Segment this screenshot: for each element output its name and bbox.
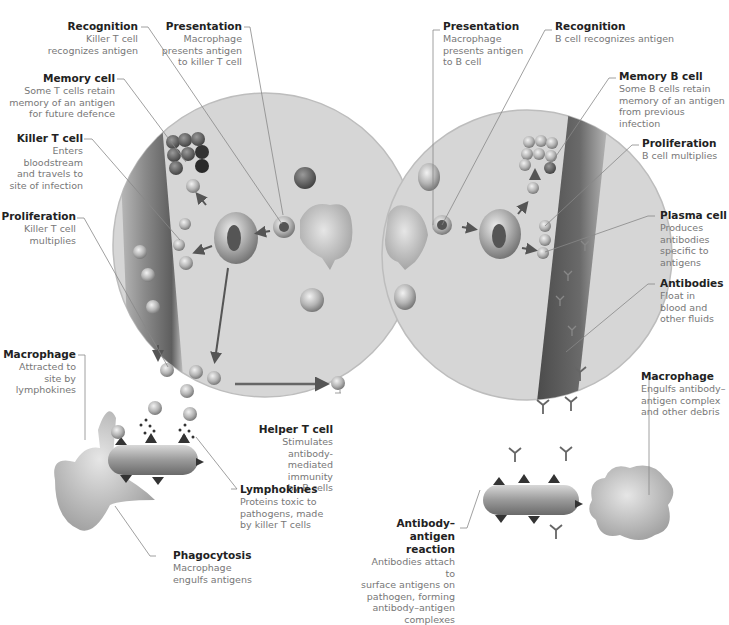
helper-t-cell [331,376,345,390]
label-macrophage-attracted: Macrophage Attracted to site by lymphoki… [0,348,76,396]
antibody-antigen-complex [483,474,583,524]
label-plasma-cell: Plasma cell Produces antibodies specific… [660,209,729,268]
label-memory-cell: Memory cell Some T cells retain memory o… [0,72,115,120]
label-proliferation-b: Proliferation B cell multiplies [642,137,729,162]
pathogen-bacterium [108,445,198,475]
label-proliferation-t: Proliferation Killer T cell multiplies [0,210,76,246]
label-antibody-antigen-reaction: Antibody–antigen reaction Antibodies att… [360,517,455,625]
label-presentation-b: Presentation Macrophage presents antigen… [443,20,533,68]
red-blood-cell [294,167,316,189]
label-recognition-t: Recognition Killer T cell recognizes ant… [40,20,138,56]
macrophage-engulfing-complex [589,466,673,540]
label-presentation-t: Presentation Macrophage presents antigen… [145,20,242,68]
label-macrophage-engulfs: Macrophage Engulfs antibody– antigen com… [641,370,729,418]
label-antibodies: Antibodies Float in blood and other flui… [660,277,729,325]
label-lymphokines: Lymphokines Proteins toxic to pathogens,… [240,483,340,531]
label-memory-b-cell: Memory B cell Some B cells retain memory… [619,70,729,129]
left-magnified-view [113,93,417,400]
phagocytosis-scene [54,401,204,531]
label-killer-t-cell: Killer T cell Enters bloodstream and tra… [0,132,83,191]
label-phagocytosis: Phagocytosis Macrophage engulfs antigens [173,549,273,585]
label-recognition-b: Recognition B cell recognizes antigen [555,20,705,45]
